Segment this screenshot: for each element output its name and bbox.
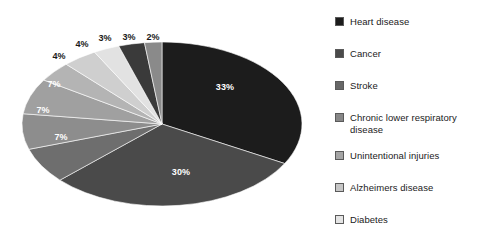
- legend-item[interactable]: Chronic lower respiratory disease: [335, 112, 485, 135]
- legend-item-label: Cancer: [350, 48, 381, 60]
- legend-color-swatch-icon: [335, 151, 344, 160]
- legend-color-swatch-icon: [335, 183, 344, 192]
- legend-color-swatch-icon: [335, 81, 344, 90]
- legend-color-swatch-icon: [335, 17, 344, 26]
- legend-item[interactable]: Heart disease: [335, 16, 485, 28]
- legend-item[interactable]: Cancer: [335, 48, 485, 60]
- pie-chart-figure: 33%30%7%7%7%4%4%3%3%2% Heart diseaseCanc…: [0, 0, 485, 242]
- legend-color-swatch-icon: [335, 49, 344, 58]
- legend-item[interactable]: Unintentional injuries: [335, 150, 485, 162]
- pie-svg: [0, 0, 330, 242]
- legend-item-label: Chronic lower respiratory disease: [350, 112, 485, 135]
- legend-item-label: Heart disease: [350, 16, 409, 28]
- legend-item-label: Diabetes: [350, 214, 388, 226]
- legend-item[interactable]: Diabetes: [335, 214, 485, 226]
- legend-item-label: Unintentional injuries: [350, 150, 439, 162]
- legend-color-swatch-icon: [335, 113, 344, 122]
- pie-plot-area: 33%30%7%7%7%4%4%3%3%2%: [0, 0, 330, 242]
- legend-item-label: Stroke: [350, 80, 378, 92]
- legend-item-label: Alzheimers disease: [350, 182, 433, 194]
- pie-slice-group: [22, 42, 302, 206]
- legend-color-swatch-icon: [335, 215, 344, 224]
- legend-item[interactable]: Alzheimers disease: [335, 182, 485, 194]
- chart-legend: Heart diseaseCancerStrokeChronic lower r…: [335, 6, 485, 238]
- legend-item[interactable]: Stroke: [335, 80, 485, 92]
